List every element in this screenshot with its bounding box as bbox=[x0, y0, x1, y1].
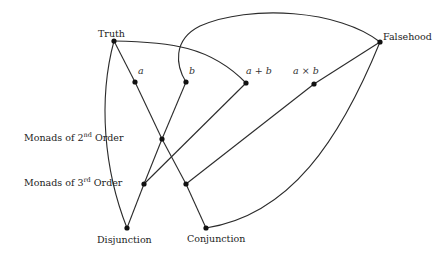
edge-truth-a bbox=[114, 41, 135, 82]
edge-third-right-conjunction bbox=[186, 184, 206, 228]
node-third-order-right bbox=[183, 181, 188, 186]
node-second-order bbox=[159, 136, 164, 141]
label-monads-3rd-order: Monads of 3rd Order bbox=[24, 176, 123, 188]
label-disjunction: Disjunction bbox=[97, 234, 152, 245]
edge-a-second-order bbox=[135, 82, 162, 139]
node-disjunction bbox=[124, 225, 129, 230]
edge-atimesb-falsehood bbox=[314, 42, 380, 84]
label-a: a bbox=[138, 65, 144, 76]
curved-edges bbox=[105, 13, 380, 228]
label-falsehood: Falsehood bbox=[383, 31, 432, 42]
node-a-times-b bbox=[311, 81, 316, 86]
node-truth bbox=[111, 38, 116, 43]
lattice-diagram: Truth a b a + b a × b Falsehood Disjunct… bbox=[0, 0, 442, 257]
label-a-times-b: a × b bbox=[293, 65, 319, 76]
label-a-plus-b: a + b bbox=[246, 65, 272, 76]
label-conjunction: Conjunction bbox=[187, 233, 245, 244]
node-conjunction bbox=[203, 225, 208, 230]
node-a-plus-b bbox=[243, 80, 248, 85]
node-third-order-left bbox=[141, 181, 146, 186]
labels: Truth a b a + b a × b Falsehood Disjunct… bbox=[24, 28, 432, 245]
edge-third-left-disjunction bbox=[127, 184, 144, 228]
curve-b-falsehood bbox=[178, 13, 380, 82]
node-a bbox=[132, 79, 137, 84]
label-monads-2nd-order: Monads of 2nd Order bbox=[24, 131, 124, 143]
diagram-svg: Truth a b a + b a × b Falsehood Disjunct… bbox=[0, 0, 442, 257]
node-falsehood bbox=[377, 39, 382, 44]
edge-second-order-third-left bbox=[144, 139, 162, 184]
label-b: b bbox=[189, 65, 195, 76]
edge-atimesb-third-right bbox=[186, 84, 314, 184]
node-b bbox=[183, 79, 188, 84]
label-truth: Truth bbox=[98, 28, 125, 39]
edge-b-second-order bbox=[162, 82, 186, 139]
